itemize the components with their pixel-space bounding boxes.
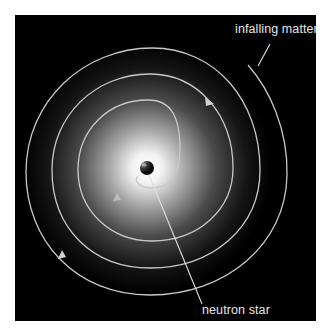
label-infalling-matter: infalling matter (235, 22, 318, 36)
accretion-diagram (0, 0, 332, 333)
neutron-star (140, 161, 154, 175)
label-neutron-star: neutron star (202, 303, 270, 317)
